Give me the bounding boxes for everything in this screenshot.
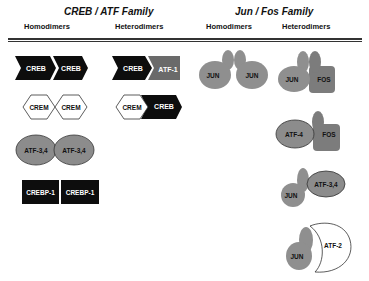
crebp1-crebp1-homodimer: CREBP-1 CREBP-1 [22,180,99,204]
creb-label: CREB [154,103,174,110]
creb-label: CREB [26,65,46,72]
crem-crem-homodimer: CREM CREM [23,95,87,119]
atf2-label: ATF-2 [324,242,342,249]
jun-atf2-heterodimer: JUN ATF-2 [286,223,351,272]
crem-label: CREM [61,104,80,111]
jun-atf34-heterodimer: JUN ATF-3,4 [281,168,345,207]
creb-label: CREB [123,65,143,72]
atf34-label: ATF-3,4 [314,181,338,189]
crem-creb-heterodimer: CREM CREB [116,95,182,119]
atf34-label: ATF-3,4 [62,147,86,155]
jun-jun-homodimer: JUN JUN [199,50,268,89]
atf34-label: ATF-3,4 [24,147,48,155]
fos-thumb [309,51,321,73]
creb-label: CREB [61,65,81,72]
creb-creb-homodimer: CREB CREB [15,56,88,80]
atf4-label: ATF-4 [285,131,303,138]
dimer-diagram: CREB CREB CREB ATF-1 CREM CREM CREM CREB… [0,0,369,281]
creb-atf1-heterodimer: CREB ATF-1 [112,56,180,80]
crem-label: CREM [122,104,141,111]
jun-label: JUN [284,192,297,199]
jun-label: JUN [290,253,303,260]
jun-label: JUN [245,72,258,79]
crem-label: CREM [29,104,48,111]
crebp1-label: CREBP-1 [66,189,95,196]
atf1-label: ATF-1 [158,66,177,73]
atf34-atf34-homodimer: ATF-3,4 ATF-3,4 [16,135,94,165]
jun-fos-heterodimer: JUN FOS [278,51,335,93]
fos-label: FOS [317,76,331,83]
jun-label: JUN [285,76,298,83]
jun-label: JUN [206,72,219,79]
atf4-fos-heterodimer: ATF-4 FOS [276,111,340,151]
crebp1-label: CREBP-1 [26,189,55,196]
fos-label: FOS [322,131,336,138]
